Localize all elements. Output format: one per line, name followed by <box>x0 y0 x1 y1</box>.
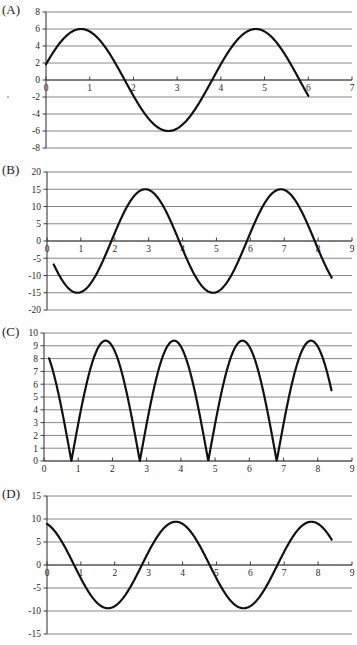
y-tick-label: 5 <box>36 219 41 229</box>
y-tick-label: -10 <box>28 271 41 281</box>
x-tick-label: 6 <box>248 568 253 578</box>
y-tick-label: -10 <box>28 606 41 616</box>
chart-d-svg: -15-10-50510150123456789 <box>0 484 357 645</box>
y-tick-label: 0 <box>35 75 40 85</box>
x-tick-label: 4 <box>179 464 184 474</box>
y-tick-label: 5 <box>36 537 41 547</box>
y-tick-label: 4 <box>33 405 38 415</box>
panel-b: (B) -20-15-10-5051015200123456789 <box>0 160 357 322</box>
panel-c: (C) 0123456789100123456789 <box>0 322 357 484</box>
y-tick-label: 5 <box>33 392 38 402</box>
x-tick-label: 3 <box>175 83 180 93</box>
y-tick-label: -5 <box>33 254 41 264</box>
y-tick-label: 2 <box>35 58 40 68</box>
y-tick-label: -4 <box>32 109 40 119</box>
y-tick-label: 6 <box>33 380 38 390</box>
y-tick-label: -15 <box>28 288 41 298</box>
y-tick-label: -6 <box>32 126 40 136</box>
x-tick-label: 3 <box>144 464 149 474</box>
x-tick-label: 5 <box>213 464 218 474</box>
x-tick-label: 7 <box>282 568 287 578</box>
y-tick-label: 0 <box>36 560 41 570</box>
chart-c-svg: 0123456789100123456789 <box>0 322 357 484</box>
scan-speck <box>7 96 9 98</box>
panel-a: (A) -8-6-4-20246801234567 <box>0 0 357 160</box>
x-tick-label: 7 <box>350 83 355 93</box>
x-tick-label: 8 <box>315 464 320 474</box>
chart-b-svg: -20-15-10-5051015200123456789 <box>0 160 357 322</box>
x-tick-label: 5 <box>214 244 219 254</box>
y-tick-label: 10 <box>32 514 42 524</box>
x-tick-label: 9 <box>350 244 355 254</box>
x-tick-label: 1 <box>79 244 84 254</box>
y-tick-label: 2 <box>33 431 38 441</box>
chart-a-svg: -8-6-4-20246801234567 <box>0 0 357 160</box>
x-tick-label: 7 <box>282 244 287 254</box>
panel-d: (D) -15-10-50510150123456789 <box>0 484 357 645</box>
panel-c-plot: 0123456789100123456789 <box>0 322 357 484</box>
x-tick-label: 8 <box>316 568 321 578</box>
y-tick-label: 8 <box>35 7 40 17</box>
y-tick-label: 6 <box>35 24 40 34</box>
y-tick-label: 15 <box>32 185 42 195</box>
y-tick-label: -20 <box>28 305 41 315</box>
x-tick-label: 4 <box>180 568 185 578</box>
x-tick-label: 5 <box>262 83 267 93</box>
y-tick-label: 4 <box>35 41 40 51</box>
x-tick-label: 3 <box>146 244 151 254</box>
panel-d-plot: -15-10-50510150123456789 <box>0 484 357 645</box>
panel-b-plot: -20-15-10-5051015200123456789 <box>0 160 357 322</box>
x-tick-label: 0 <box>45 244 50 254</box>
panel-a-plot: -8-6-4-20246801234567 <box>0 0 357 160</box>
y-tick-label: 15 <box>32 491 42 501</box>
y-tick-label: 20 <box>32 167 42 177</box>
x-tick-label: 2 <box>112 568 117 578</box>
x-tick-label: 6 <box>248 244 253 254</box>
x-tick-label: 1 <box>76 464 81 474</box>
x-tick-label: 4 <box>218 83 223 93</box>
y-tick-label: 8 <box>33 354 38 364</box>
y-tick-label: 9 <box>33 341 38 351</box>
x-tick-label: 0 <box>45 568 50 578</box>
x-tick-label: 9 <box>350 568 355 578</box>
x-tick-label: 0 <box>44 83 49 93</box>
x-tick-label: 7 <box>281 464 286 474</box>
y-tick-label: 3 <box>33 418 38 428</box>
y-tick-label: -15 <box>28 629 41 639</box>
x-tick-label: 9 <box>350 464 355 474</box>
y-tick-label: -5 <box>33 583 41 593</box>
y-tick-label: 10 <box>32 202 42 212</box>
x-tick-label: 1 <box>87 83 92 93</box>
x-tick-label: 2 <box>112 244 117 254</box>
y-tick-label: 1 <box>33 444 38 454</box>
y-tick-label: 0 <box>33 456 38 466</box>
y-tick-label: -2 <box>32 92 40 102</box>
x-tick-label: 2 <box>110 464 115 474</box>
y-tick-label: 10 <box>29 328 39 338</box>
x-tick-label: 3 <box>146 568 151 578</box>
y-tick-label: 7 <box>33 367 38 377</box>
y-tick-label: -8 <box>32 143 40 153</box>
x-tick-label: 6 <box>247 464 252 474</box>
x-tick-label: 0 <box>42 464 47 474</box>
y-tick-label: 0 <box>36 236 41 246</box>
figure-page: (A) -8-6-4-20246801234567 (B) -20-15-10-… <box>0 0 357 645</box>
